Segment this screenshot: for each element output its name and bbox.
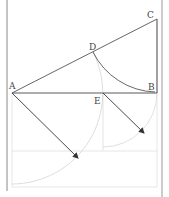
- label-point-a: A: [8, 81, 16, 91]
- label-point-e: E: [94, 96, 101, 106]
- label-point-c: C: [147, 10, 154, 20]
- arrow-from-e: [103, 93, 144, 133]
- arrow-from-a: [12, 93, 78, 158]
- segment-ac: [12, 19, 157, 93]
- construction-rectangle: [12, 93, 157, 187]
- label-point-d: D: [89, 42, 96, 52]
- label-point-b: B: [148, 82, 155, 92]
- arc-centered-a: [12, 52, 103, 184]
- geometry-diagram: A B C D E: [0, 0, 169, 197]
